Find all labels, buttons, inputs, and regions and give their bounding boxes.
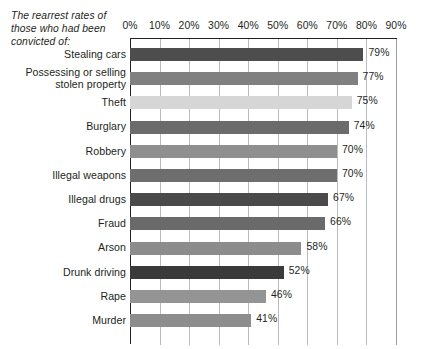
bar-row: 70% <box>130 145 396 158</box>
bar <box>130 266 284 279</box>
bar <box>130 290 266 303</box>
category-label: Arson <box>2 241 126 253</box>
bar <box>130 242 301 255</box>
bar <box>130 217 325 230</box>
category-label: Possessing or selling stolen property <box>2 66 126 91</box>
bar-value-label: 46% <box>271 289 292 300</box>
bar-value-label: 52% <box>289 265 310 276</box>
bar <box>130 314 251 327</box>
bar-row: 70% <box>130 169 396 182</box>
bar-row: 75% <box>130 96 396 109</box>
bar <box>130 48 363 61</box>
bar <box>130 193 328 206</box>
category-label: Illegal weapons <box>2 169 126 181</box>
bar-row: 46% <box>130 290 396 303</box>
bar <box>130 72 358 85</box>
bar-value-label: 75% <box>357 95 378 106</box>
category-label: Robbery <box>2 145 126 157</box>
bar-value-label: 77% <box>363 71 384 82</box>
category-label: Rape <box>2 290 126 302</box>
plot-area: 79%77%75%74%70%70%67%66%58%52%46%41% <box>130 39 396 335</box>
x-tick-label: 80% <box>356 20 377 31</box>
bar-row: 77% <box>130 72 396 85</box>
bar-value-label: 70% <box>342 144 363 155</box>
x-tick-label: 40% <box>238 20 259 31</box>
x-tick-label: 60% <box>297 20 318 31</box>
category-label: Stealing cars <box>2 48 126 60</box>
bar-value-label: 67% <box>333 192 354 203</box>
bar-value-label: 41% <box>256 313 277 324</box>
x-axis-tick-labels: 0%10%20%30%40%50%60%70%80%90% <box>130 20 396 36</box>
bar-row: 79% <box>130 48 396 61</box>
bar-row: 58% <box>130 242 396 255</box>
bar-row: 41% <box>130 314 396 327</box>
gridline <box>396 39 397 345</box>
x-tick-label: 50% <box>267 20 288 31</box>
bar-value-label: 74% <box>354 120 375 131</box>
x-tick-label: 10% <box>149 20 170 31</box>
bar-value-label: 70% <box>342 168 363 179</box>
bar-value-label: 58% <box>306 241 327 252</box>
bar-row: 67% <box>130 193 396 206</box>
category-label: Illegal drugs <box>2 193 126 205</box>
x-tick-label: 70% <box>326 20 347 31</box>
x-tick-label: 0% <box>122 20 137 31</box>
bar <box>130 169 337 182</box>
bar <box>130 96 352 109</box>
category-label: Burglary <box>2 120 126 132</box>
bar-value-label: 79% <box>368 47 389 58</box>
bar-row: 66% <box>130 217 396 230</box>
category-label: Fraud <box>2 217 126 229</box>
bar <box>130 145 337 158</box>
bar <box>130 121 349 134</box>
bar-value-label: 66% <box>330 216 351 227</box>
category-labels: Stealing carsPossessing or selling stole… <box>0 39 126 335</box>
category-label: Murder <box>2 314 126 326</box>
x-tick-label: 20% <box>179 20 200 31</box>
bar-row: 52% <box>130 266 396 279</box>
x-tick-label: 90% <box>385 20 406 31</box>
bar-chart: The rearrest rates of those who had been… <box>0 0 421 349</box>
bar-row: 74% <box>130 121 396 134</box>
x-tick-label: 30% <box>208 20 229 31</box>
category-label: Theft <box>2 96 126 108</box>
category-label: Drunk driving <box>2 266 126 278</box>
